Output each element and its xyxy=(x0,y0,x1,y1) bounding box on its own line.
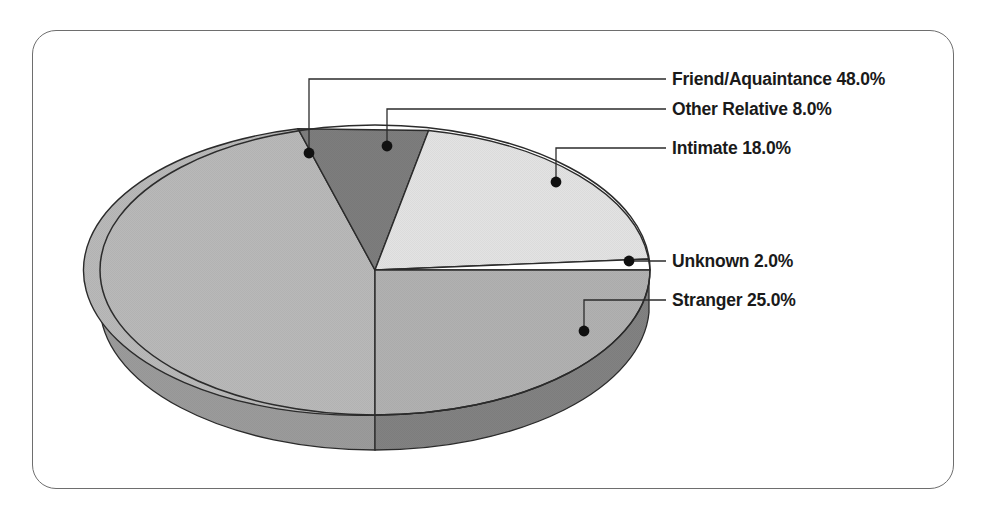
slice-label-unknown: Unknown 2.0% xyxy=(672,253,793,271)
leader-dot-intimate xyxy=(551,177,562,188)
slice-top-stranger-texture xyxy=(375,270,650,415)
slice-label-friend: Friend/Aquaintance 48.0% xyxy=(672,71,885,89)
chart-stage: Friend/Aquaintance 48.0% Other Relative … xyxy=(0,0,990,519)
slice-label-other-relative: Other Relative 8.0% xyxy=(672,101,832,119)
slice-label-intimate: Intimate 18.0% xyxy=(672,140,791,158)
leader-dot-stranger xyxy=(579,326,590,337)
slice-label-stranger: Stranger 25.0% xyxy=(672,292,796,310)
leader-dot-other-relative xyxy=(382,141,393,152)
leader-dot-friend xyxy=(304,148,315,159)
leader-dot-unknown xyxy=(624,256,635,267)
